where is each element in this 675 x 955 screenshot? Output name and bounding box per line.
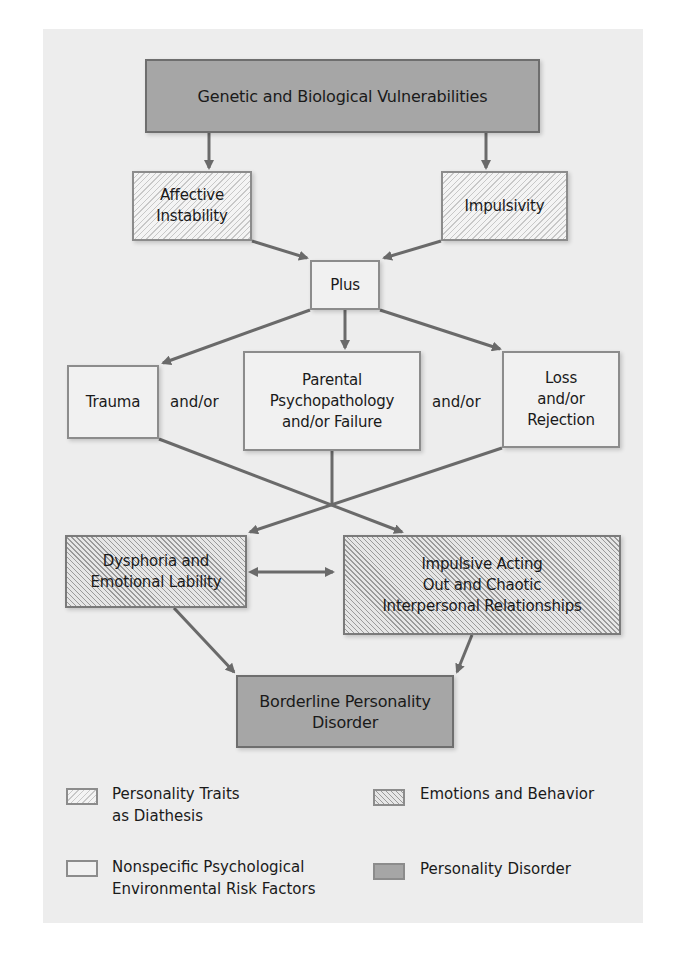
- node-borderline-personality-disorder: Borderline Personality Disorder: [236, 675, 454, 748]
- node-loss-rejection: Loss and/or Rejection: [502, 351, 620, 448]
- legend-swatch-traits-icon: [66, 788, 98, 805]
- node-affective-instability: Affective Instability: [132, 171, 252, 241]
- node-plus: Plus: [310, 260, 380, 310]
- node-trauma: Trauma: [67, 365, 159, 439]
- connector-and-or-left: and/or: [170, 392, 219, 413]
- node-dysphoria: Dysphoria and Emotional Lability: [65, 535, 247, 608]
- node-impulsive-acting-out: Impulsive Acting Out and Chaotic Interpe…: [343, 535, 621, 635]
- legend-label-traits: Personality Traits as Diathesis: [112, 783, 240, 827]
- node-impulsivity: Impulsivity: [441, 171, 568, 241]
- node-parental-psychopathology: Parental Psychopathology and/or Failure: [243, 351, 421, 451]
- connector-and-or-right: and/or: [432, 392, 481, 413]
- legend-label-disorder: Personality Disorder: [420, 858, 571, 880]
- legend-swatch-emotions-icon: [373, 789, 405, 806]
- legend-swatch-risk-factors-icon: [66, 860, 98, 877]
- legend-swatch-disorder-icon: [373, 863, 405, 880]
- legend-label-emotions: Emotions and Behavior: [420, 783, 594, 805]
- legend-label-risk-factors: Nonspecific Psychological Environmental …: [112, 856, 316, 900]
- node-genetic-vulnerabilities: Genetic and Biological Vulnerabilities: [145, 59, 540, 133]
